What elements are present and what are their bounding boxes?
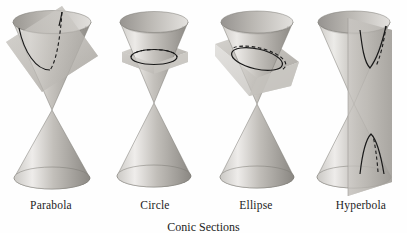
parabola-diagram [0,0,104,198]
label-hyperbola: Hyperbola [320,199,402,211]
figure-parabola [0,0,104,198]
circle-diagram [104,0,205,198]
upper-nappe-rim [120,12,188,33]
figure-ellipse [205,0,308,198]
figure-hyperbola [308,0,407,198]
label-circle: Circle [116,199,194,211]
lower-nappe-base [220,166,294,188]
conic-sections-figure: Parabola Circle Ellipse Hyperbola Conic … [0,0,407,233]
label-ellipse: Ellipse [217,199,295,211]
upper-nappe-rim [221,11,293,33]
figure-circle [104,0,205,198]
ellipse-diagram [205,0,308,198]
lower-nappe-base [117,165,191,187]
hyperbola-diagram [308,0,407,198]
figure-caption: Conic Sections [0,221,407,233]
label-parabola: Parabola [12,199,90,211]
cutting-plane-front [348,18,392,196]
lower-nappe-base [14,167,90,189]
